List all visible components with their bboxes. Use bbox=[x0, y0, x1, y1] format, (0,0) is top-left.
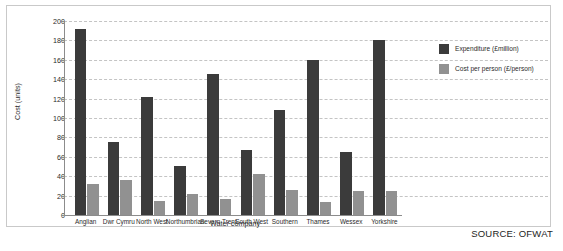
y-axis-tick-mark bbox=[61, 137, 65, 138]
legend-label: Cost per person (£/person) bbox=[455, 65, 534, 73]
bar-group bbox=[174, 21, 198, 215]
x-axis-title: Water company bbox=[69, 219, 401, 228]
x-axis-line bbox=[64, 215, 402, 216]
bar-group bbox=[340, 21, 364, 215]
bar-expenditure[interactable] bbox=[207, 74, 219, 215]
bar-expenditure[interactable] bbox=[274, 110, 286, 215]
bar-group bbox=[307, 21, 331, 215]
bar-group bbox=[274, 21, 298, 215]
bar-cost-per-person[interactable] bbox=[253, 174, 265, 215]
gridline bbox=[64, 137, 548, 138]
y-axis-tick-mark bbox=[61, 79, 65, 80]
gridline bbox=[64, 118, 548, 119]
source-note: SOURCE: OFWAT bbox=[471, 228, 553, 239]
gridline bbox=[64, 176, 548, 177]
y-axis-tick-mark bbox=[61, 60, 65, 61]
bar-cost-per-person[interactable] bbox=[87, 184, 99, 215]
bar-cost-per-person[interactable] bbox=[220, 199, 232, 215]
bar-expenditure[interactable] bbox=[141, 97, 153, 215]
bar-group bbox=[108, 21, 132, 215]
gridline bbox=[64, 157, 548, 158]
gridline bbox=[64, 40, 548, 41]
legend-swatch bbox=[439, 44, 449, 54]
y-axis-tick-mark bbox=[61, 215, 65, 216]
gridline bbox=[64, 21, 548, 22]
gridline bbox=[64, 99, 548, 100]
legend-label: Expenditure (£million) bbox=[455, 45, 519, 53]
legend-swatch bbox=[439, 64, 449, 74]
bar-cost-per-person[interactable] bbox=[286, 190, 298, 215]
y-axis-tick-mark bbox=[61, 21, 65, 22]
y-axis-tick-mark bbox=[61, 176, 65, 177]
bar-cost-per-person[interactable] bbox=[353, 191, 365, 215]
y-axis-tick-mark bbox=[61, 40, 65, 41]
bar-group bbox=[75, 21, 99, 215]
bar-group bbox=[207, 21, 231, 215]
bar-cost-per-person[interactable] bbox=[120, 180, 132, 215]
legend-item[interactable]: Expenditure (£million) bbox=[439, 44, 547, 54]
bar-cost-per-person[interactable] bbox=[320, 202, 332, 215]
bar-expenditure[interactable] bbox=[75, 29, 87, 215]
y-axis-tick-mark bbox=[61, 118, 65, 119]
bar-expenditure[interactable] bbox=[241, 150, 253, 215]
bar-group bbox=[373, 21, 397, 215]
bar-expenditure[interactable] bbox=[373, 40, 385, 215]
y-axis-title: Cost (units) bbox=[14, 62, 21, 142]
bar-cost-per-person[interactable] bbox=[386, 191, 398, 215]
y-axis-tick-mark bbox=[61, 99, 65, 100]
bar-expenditure[interactable] bbox=[108, 142, 120, 215]
bar-group bbox=[241, 21, 265, 215]
bar-expenditure[interactable] bbox=[174, 166, 186, 215]
bar-expenditure[interactable] bbox=[340, 152, 352, 215]
bar-group bbox=[141, 21, 165, 215]
bar-cost-per-person[interactable] bbox=[187, 194, 199, 215]
y-axis-tick-mark bbox=[61, 157, 65, 158]
legend-item[interactable]: Cost per person (£/person) bbox=[439, 64, 547, 74]
chart-panel: Cost (units) 020406080100120140160180200… bbox=[6, 5, 551, 227]
chart-legend: Expenditure (£million)Cost per person (£… bbox=[439, 44, 547, 84]
bar-cost-per-person[interactable] bbox=[154, 201, 166, 215]
gridline bbox=[64, 196, 548, 197]
bar-expenditure[interactable] bbox=[307, 60, 319, 215]
plot-area: AnglianDwr CymruNorth WestNorthumbrianSe… bbox=[69, 21, 401, 215]
y-axis-tick-mark bbox=[61, 196, 65, 197]
